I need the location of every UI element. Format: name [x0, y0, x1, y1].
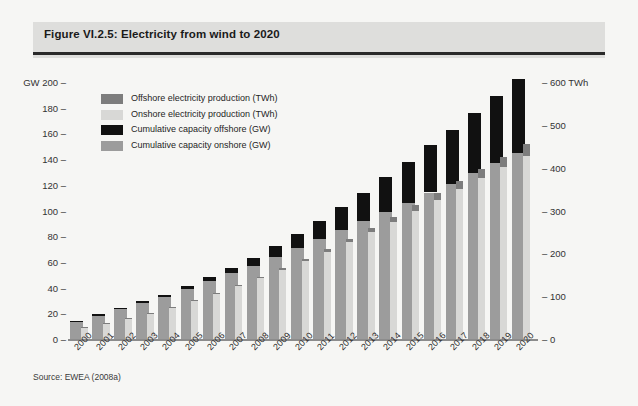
y-axis-tick-left: 160 – — [42, 128, 66, 139]
y-axis-tick-right: – 600 TWh — [542, 77, 588, 88]
bar-production-onshore — [302, 261, 309, 339]
legend-item: Cumulative capacity onshore (GW) — [101, 139, 341, 153]
y-axis-tick-right: – 200 — [542, 248, 566, 259]
bar-production-offshore — [279, 268, 286, 269]
y-axis-tick-right: – 500 — [542, 120, 566, 131]
bar-capacity-offshore — [158, 295, 171, 297]
bar-capacity-offshore — [247, 258, 260, 266]
legend-label: Onshore electricity production (TWh) — [131, 109, 278, 119]
bar-production-offshore — [412, 205, 419, 211]
bar-capacity-offshore — [357, 193, 370, 221]
bar-production-offshore — [368, 228, 375, 232]
bar-capacity-offshore — [136, 301, 149, 303]
bar-capacity-offshore — [468, 113, 481, 173]
bar-capacity-offshore — [225, 268, 238, 273]
bar-production-offshore — [523, 144, 530, 155]
source-note: Source: EWEA (2008a) — [33, 372, 121, 382]
y-axis-tick-left: 20 – — [48, 308, 67, 319]
legend-swatch — [101, 110, 123, 120]
y-axis-tick-left: 80 – — [48, 231, 67, 242]
bar-production-onshore — [368, 232, 375, 339]
legend-swatch — [101, 125, 123, 135]
y-axis-tick-left: 0 – — [53, 334, 66, 345]
bar-production-onshore — [412, 211, 419, 339]
bar-capacity-offshore — [291, 234, 304, 248]
y-axis-tick-right: – 400 — [542, 163, 566, 174]
bar-production-offshore — [456, 181, 463, 189]
bar-production-offshore — [257, 277, 264, 278]
bar-capacity-offshore — [379, 177, 392, 212]
bar-capacity-offshore — [269, 246, 282, 256]
bar-production-onshore — [478, 178, 485, 339]
bar-production-offshore — [390, 217, 397, 222]
bar-production-onshore — [434, 200, 441, 339]
right-axis: – 0– 100– 200– 300– 400– 500– 600 TWh — [540, 70, 630, 360]
legend-swatch — [101, 94, 123, 104]
bar-capacity-offshore — [490, 96, 503, 163]
legend-label: Offshore electricity production (TWh) — [131, 93, 277, 103]
legend-item: Onshore electricity production (TWh) — [101, 108, 341, 122]
bar-production-onshore — [390, 222, 397, 339]
bar-production-offshore — [500, 157, 507, 167]
bar-production-offshore — [81, 327, 88, 328]
bar-production-offshore — [191, 300, 198, 301]
bar-production-onshore — [346, 242, 353, 339]
legend-item: Offshore electricity production (TWh) — [101, 92, 341, 106]
bar-production-offshore — [169, 307, 176, 308]
bar-capacity-offshore — [402, 162, 415, 203]
bar-production-onshore — [456, 189, 463, 339]
y-axis-tick-right: – 100 — [542, 291, 566, 302]
y-axis-tick-right: – 300 — [542, 206, 566, 217]
bar-capacity-offshore — [313, 221, 326, 239]
bar-capacity-offshore — [92, 314, 105, 316]
bar-production-offshore — [147, 313, 154, 314]
bar-capacity-offshore — [203, 277, 216, 281]
y-axis-tick-left: GW 200 – — [23, 77, 66, 88]
bar-production-onshore — [324, 252, 331, 339]
bar-capacity-offshore — [512, 79, 525, 152]
y-axis-tick-left: 60 – — [48, 257, 67, 268]
y-axis-tick-left: 180 – — [42, 103, 66, 114]
bar-capacity-offshore — [114, 308, 127, 310]
bar-production-onshore — [500, 167, 507, 339]
y-axis-tick-right: – 0 — [542, 334, 555, 345]
bar-capacity-offshore — [446, 130, 459, 184]
bar-production-onshore — [279, 270, 286, 339]
legend-swatch — [101, 141, 123, 151]
left-axis: 0 –20 –40 –60 –80 –100 –120 –140 –160 –1… — [0, 70, 68, 360]
y-axis-tick-left: 120 – — [42, 180, 66, 191]
bar-production-onshore — [523, 156, 530, 339]
bar-production-offshore — [478, 169, 485, 178]
bar-capacity-offshore — [335, 207, 348, 230]
bar-capacity-offshore — [424, 145, 437, 193]
figure-title: Figure VI.2.5: Electricity from wind to … — [44, 28, 280, 40]
bar-production-offshore — [434, 193, 441, 200]
y-axis-tick-left: 140 – — [42, 154, 66, 165]
bar-production-offshore — [235, 285, 242, 286]
title-rule — [33, 52, 605, 55]
bar-production-offshore — [346, 239, 353, 242]
bar-production-offshore — [302, 259, 309, 261]
bar-production-offshore — [324, 249, 331, 252]
bar-capacity-offshore — [70, 321, 83, 323]
legend-item: Cumulative capacity offshore (GW) — [101, 123, 341, 137]
bar-production-offshore — [125, 318, 132, 319]
legend-label: Cumulative capacity onshore (GW) — [131, 140, 271, 150]
figure-container: Figure VI.2.5: Electricity from wind to … — [0, 0, 638, 406]
bar-capacity-offshore — [181, 286, 194, 289]
legend-label: Cumulative capacity offshore (GW) — [131, 124, 270, 134]
y-axis-tick-left: 100 – — [42, 206, 66, 217]
bar-production-offshore — [213, 293, 220, 294]
y-axis-tick-left: 40 – — [48, 283, 67, 294]
chart-legend: Offshore electricity production (TWh)Ons… — [101, 92, 341, 154]
bar-production-offshore — [103, 323, 110, 324]
